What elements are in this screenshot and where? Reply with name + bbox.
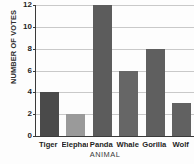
y-tick-label: 6	[14, 67, 32, 75]
bar	[40, 92, 59, 136]
bar-slot	[169, 5, 195, 136]
y-tick-label: 10	[14, 23, 32, 31]
bar-slot	[36, 5, 63, 136]
bar	[119, 71, 138, 137]
bar-series	[36, 5, 194, 136]
x-axis-tick-labels: TigerElephantPandaWhaleGorillaWolf	[35, 139, 194, 150]
bar-slot	[89, 5, 116, 136]
x-tick-label: Elephant	[62, 139, 89, 150]
bar-chart: NUMBER OF VOTES 024681012 TigerElephantP…	[0, 0, 194, 164]
y-tick-label: 4	[14, 88, 32, 96]
plot-area	[35, 5, 194, 137]
y-tick-label: 0	[14, 132, 32, 140]
x-tick-label: Whale	[115, 139, 142, 150]
x-tick-label: Panda	[88, 139, 115, 150]
x-tick-label: Wolf	[168, 139, 195, 150]
bar	[172, 103, 191, 136]
y-tickmark	[33, 136, 36, 137]
x-tick-label: Gorilla	[141, 139, 168, 150]
x-tick-label: Tiger	[35, 139, 62, 150]
bar	[66, 114, 85, 136]
bar	[93, 5, 112, 136]
bar-slot	[116, 5, 143, 136]
y-tick-label: 2	[14, 110, 32, 118]
y-tick-label: 8	[14, 45, 32, 53]
bar-slot	[142, 5, 169, 136]
bar-slot	[63, 5, 90, 136]
bar	[146, 49, 165, 136]
y-tick-label: 12	[14, 1, 32, 9]
x-axis-title: ANIMAL	[35, 150, 175, 159]
y-axis-tick-labels: 024681012	[14, 0, 32, 164]
